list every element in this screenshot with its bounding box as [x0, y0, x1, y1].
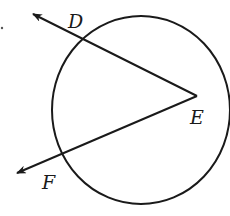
- geometry-diagram: D E F: [0, 0, 230, 216]
- label-D: D: [67, 10, 83, 32]
- label-E: E: [189, 106, 204, 128]
- stray-dot: [1, 27, 3, 29]
- ray-EF-arrow: [17, 96, 197, 173]
- label-F: F: [41, 171, 56, 193]
- ray-ED-arrow: [33, 14, 197, 96]
